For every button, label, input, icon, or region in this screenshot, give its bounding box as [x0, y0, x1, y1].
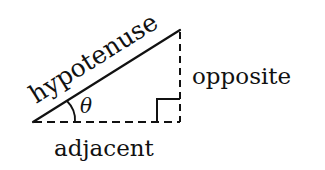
hypotenuse-label: hypotenuse — [24, 7, 163, 109]
right-triangle-diagram: θ hypotenuse opposite adjacent — [0, 0, 325, 170]
angle-label: θ — [80, 94, 92, 118]
right-angle-marker — [157, 99, 180, 122]
angle-arc — [67, 101, 75, 122]
opposite-label: opposite — [192, 63, 291, 89]
adjacent-label: adjacent — [54, 135, 155, 161]
